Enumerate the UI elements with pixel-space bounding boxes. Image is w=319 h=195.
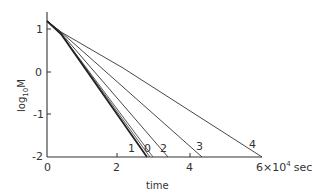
y-axis-title: log10M [16, 79, 30, 112]
curve-label-3: 3 [196, 140, 203, 153]
y-tick-label-m1: -1 [33, 108, 44, 121]
x-tick-label-0: 0 [44, 161, 51, 174]
curve-label-0: 0 [144, 142, 151, 155]
curve-label-4: 4 [249, 138, 256, 151]
curve-label-2: 2 [160, 142, 167, 155]
x-tick-label-4: 4 [186, 161, 193, 174]
y-tick-label-m2: -2 [32, 150, 43, 163]
curve-4 [47, 21, 262, 157]
y-tick-label-0: 0 [35, 66, 42, 79]
x-tick-label-2: 2 [113, 161, 120, 174]
y-tick-label-1: 1 [36, 23, 43, 36]
x-axis-title: time [146, 180, 169, 191]
curve-label-1: 1 [128, 142, 135, 155]
x-tick-label-6: 6×104sec [256, 160, 312, 174]
curve-1 [47, 21, 147, 157]
decay-chart: 1 0 -1 -2 0 2 4 6×104sec time log10M 1 0… [0, 0, 319, 195]
curve-3 [47, 21, 202, 157]
